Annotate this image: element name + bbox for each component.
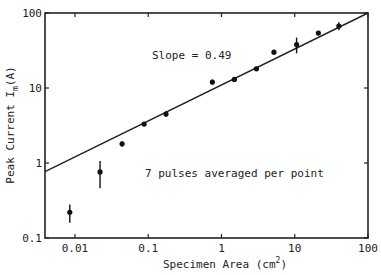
- pulses-annotation: 7 pulses averaged per point: [145, 167, 324, 180]
- x-axis-label: Specimen Area (cm2): [163, 256, 287, 271]
- data-point: [294, 38, 299, 54]
- data-point: [67, 204, 72, 222]
- y-tick-label: 10: [29, 82, 42, 95]
- slope-annotation: Slope = 0.49: [152, 49, 231, 62]
- data-point: [254, 66, 259, 71]
- data-point: [232, 77, 237, 82]
- x-tick-label: 0.01: [62, 242, 89, 255]
- data-point: [336, 22, 341, 30]
- x-tick-label: 1: [218, 242, 225, 255]
- tick-labels: 0.010.11101000.1110100: [22, 7, 378, 255]
- data-point: [142, 122, 147, 127]
- axis-ticks: [45, 13, 368, 238]
- plot-frame: [45, 13, 368, 238]
- data-point: [163, 111, 168, 117]
- x-tick-label: 100: [358, 242, 378, 255]
- y-axis-label: Peak Current Im(A): [4, 66, 20, 183]
- y-tick-label: 0.1: [22, 232, 42, 245]
- chart: 0.010.11101000.1110100 Slope = 0.49 7 pu…: [0, 0, 381, 275]
- data-point: [97, 161, 102, 188]
- data-point: [119, 141, 124, 146]
- y-tick-label: 1: [35, 157, 42, 170]
- y-tick-label: 100: [22, 7, 42, 20]
- data-point: [271, 50, 276, 55]
- x-tick-label: 10: [288, 242, 301, 255]
- fit-line: [45, 13, 368, 172]
- data-point: [210, 79, 215, 84]
- data-point: [316, 30, 321, 35]
- x-tick-label: 0.1: [138, 242, 158, 255]
